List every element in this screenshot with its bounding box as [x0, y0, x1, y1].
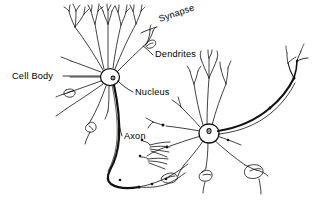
- nucleolus-left: [112, 77, 114, 79]
- synaptic-inputs-centre: [139, 139, 170, 169]
- label-cell-body: Cell Body: [12, 71, 53, 81]
- axon-terminals-left: [119, 164, 188, 189]
- neuron-diagram-figure: Synapse Dendrites Cell Body Nucleus Axon: [0, 0, 320, 206]
- leader-nucleus: [118, 81, 133, 92]
- soma-left: [101, 69, 120, 86]
- label-axon: Axon: [124, 131, 146, 141]
- nucleolus-right: [208, 130, 210, 132]
- label-dendrites: Dendrites: [155, 49, 196, 59]
- cell-body-left: [101, 69, 120, 86]
- label-nucleus: Nucleus: [135, 87, 170, 97]
- axon-right: [218, 44, 308, 134]
- dendrites-left-upper: [64, 4, 156, 71]
- neuron-diagram-svg: Synapse Dendrites Cell Body Nucleus Axon: [0, 0, 320, 206]
- leader-dendrites: [143, 46, 153, 55]
- dendrites-left-lateral: [56, 57, 109, 144]
- label-synapse: Synapse: [157, 2, 195, 24]
- dendrites-right-upper: [172, 50, 231, 127]
- leader-synapse: [141, 27, 157, 33]
- soma-right: [199, 124, 219, 143]
